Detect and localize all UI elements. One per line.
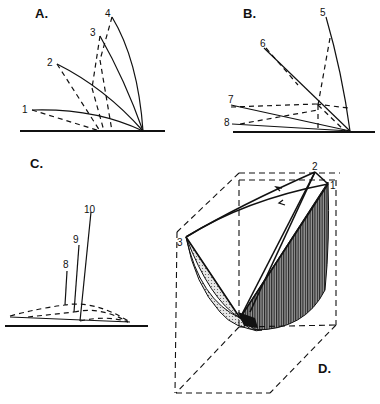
arrow-icon: [279, 200, 285, 205]
dashed-lines-b: [231, 38, 348, 131]
panel-label-d: D.: [318, 361, 331, 376]
position-label: 8: [63, 259, 69, 270]
dashed-lines-a: [32, 17, 112, 131]
position-label: 8: [224, 117, 230, 128]
curve-b-5: [326, 17, 350, 131]
panel-a-labels: A. 1 2 3 4: [22, 6, 111, 115]
position-label: 1: [22, 104, 28, 115]
position-label: 3: [177, 237, 183, 248]
position-label: 2: [47, 57, 53, 68]
panel-label-a: A.: [35, 6, 48, 21]
figure: A. 1 2 3 4 B. 5 6 7 8: [0, 0, 380, 404]
stick-c-9: [74, 245, 79, 312]
panel-label-b: B.: [243, 6, 256, 21]
panel-label-c: C.: [30, 156, 43, 171]
position-label: 6: [260, 38, 266, 49]
position-label: 1: [330, 180, 336, 191]
position-label: 5: [320, 7, 326, 18]
panel-c-labels: C. 8 9 10: [30, 156, 96, 270]
position-label: 10: [84, 204, 96, 215]
stick-c-8: [65, 271, 67, 305]
position-label: 3: [90, 27, 96, 38]
position-label: 7: [228, 94, 234, 105]
position-label: 2: [312, 161, 318, 172]
position-label: 9: [73, 234, 79, 245]
base-line-c: [10, 317, 130, 322]
panel-b-labels: B. 5 6 7 8: [224, 6, 326, 128]
panel-c: [5, 212, 148, 326]
position-label: 4: [105, 8, 111, 19]
panel-d: [175, 172, 340, 393]
panel-b: [231, 17, 375, 132]
